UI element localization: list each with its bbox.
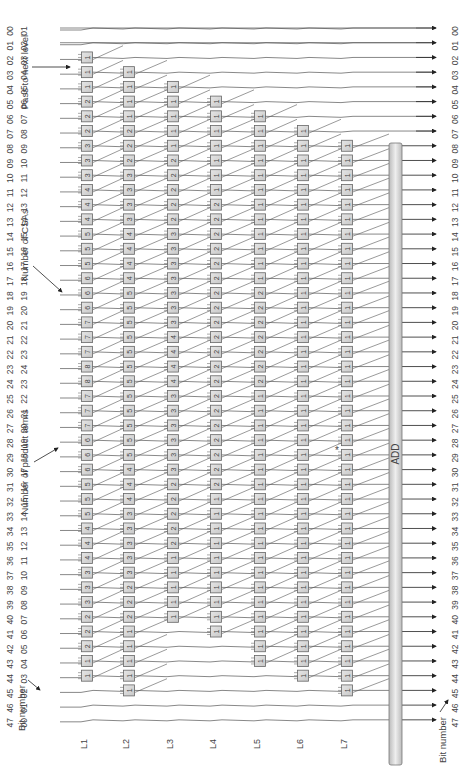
svg-text:2: 2 [170,482,177,486]
svg-text:1: 1 [300,453,307,457]
svg-text:1: 1 [213,497,220,501]
product-term-count: 04 [19,659,29,669]
product-term-count: 11 [19,556,29,565]
csa-box: 2 [207,258,222,269]
csa-box: 1 [207,538,222,549]
csa-box: 2 [164,199,179,210]
svg-text:5: 5 [84,497,91,501]
svg-text:6: 6 [84,438,91,442]
csa-box: 1 [251,258,266,269]
svg-text:1: 1 [84,55,91,59]
csa-box: 4 [164,361,179,372]
output-bit-label: 01 [450,41,460,51]
svg-text:1: 1 [126,674,133,678]
svg-text:2: 2 [126,615,133,619]
svg-text:5: 5 [126,438,133,442]
svg-text:1: 1 [213,114,220,118]
csa-box: 1 [164,597,179,608]
csa-box: 3 [164,302,179,313]
csa-box: 1 [294,214,309,225]
svg-text:1: 1 [344,247,351,251]
output-bit-label: 43 [450,659,460,669]
svg-text:1: 1 [213,571,220,575]
output-bit-label: 41 [450,630,460,640]
csa-box: 1 [338,317,353,328]
csa-box: 1 [164,140,179,151]
svg-text:1: 1 [344,276,351,280]
csa-box: 5 [78,479,93,490]
svg-text:3: 3 [170,291,177,295]
csa-box: 1 [251,140,266,151]
csa-box: 1 [338,552,353,563]
svg-text:1: 1 [344,217,351,221]
csa-box: 2 [120,582,135,593]
svg-text:1: 1 [300,203,307,207]
svg-text:1: 1 [300,158,307,162]
csa-box: 1 [251,435,266,446]
svg-text:5: 5 [126,423,133,427]
svg-text:5: 5 [126,379,133,383]
csa-box: 1 [251,111,266,122]
output-bit-label: 08 [450,144,460,154]
svg-text:2: 2 [213,365,220,369]
svg-text:1: 1 [126,100,133,104]
csa-box: 2 [207,273,222,284]
bit-number-label: 14 [5,232,15,242]
svg-text:1: 1 [300,674,307,678]
svg-text:1: 1 [170,585,177,589]
bit-number-label: 30 [5,468,15,478]
csa-box: 1 [338,243,353,254]
csa-box: 1 [207,96,222,107]
csa-box: 3 [164,229,179,240]
csa-box: 1 [338,287,353,298]
bit-number-label: 47 [5,718,15,728]
csa-box: 5 [120,287,135,298]
bit-number-label: 24 [5,379,15,389]
svg-text:1: 1 [344,232,351,236]
csa-box: 1 [294,126,309,137]
svg-text:2: 2 [126,600,133,604]
svg-text:1: 1 [344,512,351,516]
svg-text:3: 3 [126,526,133,530]
csa-box: 1 [338,170,353,181]
svg-text:1: 1 [257,556,264,560]
svg-text:1: 1 [170,129,177,133]
svg-text:3: 3 [84,173,91,177]
svg-text:1: 1 [300,379,307,383]
svg-text:5: 5 [84,512,91,516]
svg-text:2: 2 [126,144,133,148]
csa-box: 1 [338,391,353,402]
csa-box: 3 [164,405,179,416]
output-bit-label: 21 [450,335,460,345]
product-term-count: 07 [19,114,29,124]
csa-box: 1 [251,479,266,490]
bit-number-label: 15 [5,247,15,257]
svg-text:1: 1 [344,674,351,678]
csa-box: 2 [207,435,222,446]
svg-text:1: 1 [170,100,177,104]
svg-text:1: 1 [300,644,307,648]
csa-box: 5 [120,317,135,328]
svg-text:2: 2 [257,306,264,310]
svg-text:1: 1 [213,158,220,162]
csa-boxes: 1112223334445556667778877766655544433322… [78,52,353,696]
csa-box: 1 [294,287,309,298]
csa-box: 2 [207,391,222,402]
svg-text:1: 1 [300,365,307,369]
svg-text:1: 1 [344,615,351,619]
csa-box: 3 [164,435,179,446]
level-label-l4: L4 [208,739,218,749]
svg-text:1: 1 [257,615,264,619]
csa-box: 5 [120,391,135,402]
bit-number-label: 13 [5,217,15,227]
csa-box: 6 [78,287,93,298]
svg-text:1: 1 [300,438,307,442]
product-term-count: 23 [19,350,29,360]
csa-box: 1 [294,449,309,460]
svg-text:1: 1 [213,541,220,545]
svg-text:3: 3 [170,320,177,324]
csa-box: 1 [120,685,135,696]
csa-box: 2 [207,243,222,254]
svg-text:4: 4 [126,497,133,501]
svg-text:1: 1 [213,512,220,516]
